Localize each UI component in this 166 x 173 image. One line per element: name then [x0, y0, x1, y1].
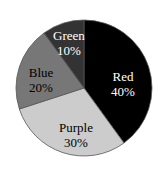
slice-label-blue-pct: 20% [29, 80, 53, 95]
slice-label-purple-pct: 30% [64, 135, 88, 150]
slice-label-red-pct: 40% [111, 84, 135, 99]
slice-label-green-name: Green [53, 28, 85, 43]
slice-label-red-name: Red [113, 69, 134, 84]
pie-chart: Red 40% Purple 30% Blue 20% Green 10% [0, 0, 166, 173]
slice-label-blue-name: Blue [29, 65, 54, 80]
slice-label-green-pct: 10% [57, 43, 81, 58]
slice-label-purple-name: Purple [59, 120, 93, 135]
